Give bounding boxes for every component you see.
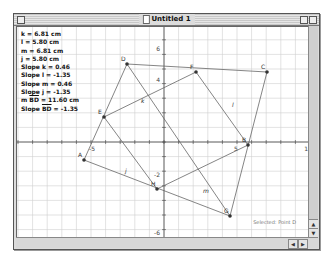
- point-label: D: [121, 55, 126, 62]
- document-icon: [142, 15, 149, 24]
- point-f[interactable]: [194, 70, 198, 74]
- point-label: H: [151, 180, 156, 187]
- title-wrap: Untitled 1: [138, 14, 194, 25]
- scroll-left-arrow-icon[interactable]: ◀: [288, 239, 298, 249]
- geometry-points[interactable]: DFCEBAHG: [78, 55, 269, 218]
- y-tick-label: 6: [156, 45, 160, 52]
- line-label-m: m: [203, 187, 209, 194]
- y-tick-label: -2: [154, 171, 160, 178]
- line-label-k: k: [141, 97, 145, 104]
- measure-bd-slope[interactable]: Slope BD = -1.35: [21, 105, 79, 113]
- horizontal-scrollbar[interactable]: ◀ ▶: [16, 237, 318, 248]
- geometry-lines: [84, 64, 267, 216]
- measure-l-slope[interactable]: Slope l = -1.35: [21, 71, 79, 79]
- point-g[interactable]: [228, 214, 232, 218]
- point-h[interactable]: [155, 187, 159, 191]
- point-label: A: [78, 151, 83, 158]
- measure-k-slope[interactable]: Slope k = 0.46: [21, 63, 79, 71]
- measure-l-length[interactable]: l = 5.80 cm: [21, 38, 79, 46]
- point-e[interactable]: [102, 115, 106, 119]
- title-bar[interactable]: Untitled 1: [14, 14, 319, 26]
- measurement-list: k = 6.81 cm l = 5.80 cm m = 6.81 cm j = …: [21, 30, 79, 113]
- line-label-j: j: [124, 167, 127, 175]
- scroll-down-arrow-icon[interactable]: ▼: [309, 228, 318, 237]
- measure-bd-length[interactable]: m BD = 11.60 cm: [21, 96, 79, 104]
- collapse-box[interactable]: [309, 16, 317, 24]
- sketch-window: Untitled 1 -551064-2-6 DFCEBAHG kljm k =…: [13, 13, 320, 250]
- point-label: E: [98, 108, 102, 115]
- line-labels: kljm: [124, 97, 234, 194]
- close-box[interactable]: [17, 16, 25, 24]
- point-c[interactable]: [265, 70, 269, 74]
- y-tick-label: -6: [154, 229, 160, 236]
- window-title: Untitled 1: [151, 14, 190, 25]
- measure-j-length[interactable]: j = 5.80 cm: [21, 55, 79, 63]
- point-a[interactable]: [82, 158, 86, 162]
- point-label: C: [261, 63, 265, 70]
- measure-m-length[interactable]: m = 6.81 cm: [21, 47, 79, 55]
- measure-m-slope[interactable]: Slope m = 0.46: [21, 80, 79, 88]
- point-label: B: [242, 136, 246, 143]
- point-label: F: [190, 63, 194, 70]
- point-label: G: [224, 207, 229, 214]
- point-d[interactable]: [125, 62, 129, 66]
- y-tick-label: 4: [156, 76, 160, 83]
- point-b[interactable]: [246, 143, 250, 147]
- measure-k-length[interactable]: k = 6.81 cm: [21, 30, 79, 38]
- scroll-up-arrow-icon[interactable]: ▲: [309, 219, 318, 228]
- scroll-right-arrow-icon[interactable]: ▶: [298, 239, 308, 249]
- status-text: Selected: Point D: [253, 219, 296, 225]
- vertical-scrollbar[interactable]: ▲ ▼: [308, 26, 318, 237]
- line-label-l: l: [232, 101, 234, 108]
- sketch-canvas[interactable]: -551064-2-6 DFCEBAHG kljm k = 6.81 cm l …: [16, 26, 309, 239]
- zoom-box[interactable]: [300, 16, 308, 24]
